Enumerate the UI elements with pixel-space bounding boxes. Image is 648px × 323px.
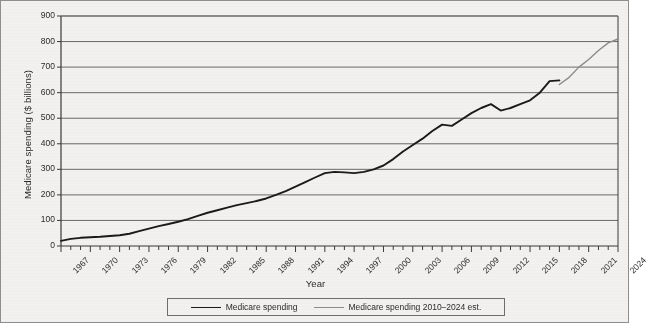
legend-label-actual: Medicare spending [226,302,298,312]
axis-lines-group [61,16,618,246]
data-series-group [61,39,618,241]
y-tick-label-900: 900 [13,10,55,20]
y-tick-label-400: 400 [13,138,55,148]
y-tick-label-800: 800 [13,36,55,46]
gridlines-group [61,16,618,220]
x-tick-label-2024: 2024 [628,255,648,275]
axis-ticks-group [57,16,618,252]
y-tick-label-600: 600 [13,87,55,97]
chart-canvas [1,1,630,323]
x-axis-title: Year [1,278,630,289]
y-tick-label-700: 700 [13,61,55,71]
y-tick-label-200: 200 [13,189,55,199]
series-line-estimate [559,39,618,84]
legend-item-medicare-spending-estimate: Medicare spending 2010–2024 est. [314,302,482,312]
y-tick-label-100: 100 [13,214,55,224]
y-tick-label-500: 500 [13,112,55,122]
series-line-actual [61,80,559,240]
legend-swatch-icon-estimate [314,307,344,308]
y-tick-label-0: 0 [13,240,55,250]
legend-label-estimate: Medicare spending 2010–2024 est. [349,302,482,312]
legend-swatch-icon-actual [191,307,221,308]
y-axis-title: Medicare spending ($ billions) [22,55,33,215]
y-tick-label-300: 300 [13,163,55,173]
legend-item-medicare-spending: Medicare spending [191,302,298,312]
chart-legend: Medicare spending Medicare spending 2010… [167,298,505,316]
